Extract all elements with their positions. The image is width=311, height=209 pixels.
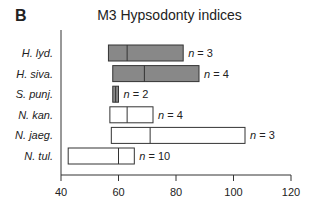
box [110, 107, 153, 123]
box-row: H. lyd.n = 3 [22, 45, 213, 61]
x-tick-label: 80 [170, 186, 182, 198]
category-label: N. kan. [18, 109, 53, 121]
n-label: n = 10 [139, 150, 170, 162]
x-tick-label: 60 [112, 186, 124, 198]
box-row: S. punj.n = 2 [16, 86, 149, 102]
x-tick-label: 100 [224, 186, 242, 198]
x-tick-label: 40 [55, 186, 67, 198]
box [108, 45, 183, 61]
n-label: n = 3 [250, 129, 275, 141]
box [68, 148, 134, 164]
category-label: H. siva. [16, 68, 53, 80]
category-label: N. jaeg. [15, 129, 53, 141]
marks: H. lyd.n = 3H. siva.n = 4S. punj.n = 2N.… [15, 45, 275, 164]
n-label: n = 4 [158, 109, 183, 121]
box-chart: 406080100120 H. lyd.n = 3H. siva.n = 4S.… [0, 0, 311, 209]
n-label: n = 3 [188, 47, 213, 59]
n-label: n = 2 [124, 88, 149, 100]
box-row: N. kan.n = 4 [18, 107, 183, 123]
category-label: N. tul. [24, 150, 53, 162]
category-label: H. lyd. [22, 47, 53, 59]
x-tick-label: 120 [282, 186, 300, 198]
box [111, 127, 245, 143]
n-label: n = 4 [204, 68, 229, 80]
box-row: H. siva.n = 4 [16, 66, 228, 82]
box [113, 66, 199, 82]
box-row: N. jaeg.n = 3 [15, 127, 275, 143]
box-row: N. tul.n = 10 [24, 148, 170, 164]
category-label: S. punj. [16, 88, 53, 100]
